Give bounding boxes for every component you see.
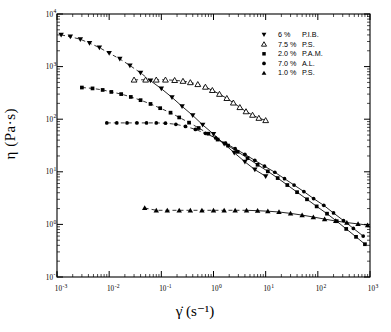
series-line-dashed (145, 208, 247, 210)
legend-percent: 7.5 % (278, 40, 297, 49)
data-point (354, 235, 358, 239)
data-point (135, 121, 139, 125)
data-point (312, 197, 316, 201)
data-point (344, 227, 348, 231)
data-point (195, 82, 201, 87)
svg-text:0: 0 (219, 283, 222, 289)
svg-text:-2: -2 (115, 283, 120, 289)
legend-percent: 2.0 % (278, 49, 297, 58)
figure-root: 10-310-210-11001011021031041031021011001… (0, 0, 391, 332)
data-point (224, 95, 230, 100)
data-point (109, 90, 113, 94)
svg-text:10: 10 (263, 285, 271, 293)
x-tick-label: 102 (316, 283, 327, 293)
svg-text:0: 0 (54, 219, 57, 225)
data-point (262, 71, 267, 75)
data-point (256, 115, 262, 120)
data-point (262, 62, 266, 66)
data-point (204, 131, 208, 135)
data-point (214, 136, 218, 140)
svg-text:10: 10 (46, 274, 54, 282)
data-point (253, 159, 257, 163)
data-point (243, 152, 247, 156)
svg-text:10: 10 (159, 285, 167, 293)
data-point (87, 41, 92, 46)
data-point (262, 33, 267, 37)
data-point (129, 95, 133, 99)
data-point (285, 183, 289, 187)
x-axis-title: γ̇ (s⁻¹) (120, 302, 270, 320)
data-point (352, 227, 356, 231)
data-point (237, 105, 243, 110)
svg-text:1: 1 (271, 283, 274, 289)
legend-percent: 1.0 % (278, 68, 297, 77)
y-tick-label: 103 (46, 61, 57, 71)
svg-text:4: 4 (54, 8, 57, 14)
data-point (125, 121, 129, 125)
series-line-dashed (61, 35, 150, 81)
data-point (145, 121, 149, 125)
svg-text:10: 10 (46, 221, 54, 229)
data-point (164, 121, 168, 125)
series-4 (142, 205, 370, 227)
series-line-solid (151, 81, 266, 177)
data-point (149, 102, 153, 106)
data-point (256, 163, 260, 167)
data-point (283, 177, 287, 181)
data-point (292, 183, 296, 187)
chart-canvas: 10-310-210-11001011021031041031021011001… (0, 0, 391, 332)
y-axis-title: η (Pa·s) (2, 108, 36, 159)
data-point (68, 35, 73, 40)
data-point (184, 125, 188, 129)
data-point (142, 205, 147, 210)
data-point (224, 141, 228, 145)
svg-text:10: 10 (55, 285, 63, 293)
legend-percent: 6 % (278, 30, 291, 39)
data-point (194, 128, 198, 132)
data-point (180, 78, 186, 83)
legend-sample: A.L. (302, 59, 315, 68)
svg-text:-1: -1 (54, 271, 59, 277)
legend-sample: P.A.M. (302, 49, 323, 58)
x-tick-label: 10-1 (159, 283, 172, 293)
data-point (139, 98, 143, 102)
svg-text:2: 2 (323, 283, 326, 289)
data-point (115, 121, 119, 125)
data-point (332, 211, 336, 215)
series-0 (58, 33, 268, 179)
x-tick-label: 103 (368, 283, 379, 293)
data-point (230, 100, 236, 105)
data-point (127, 63, 132, 68)
legend: 6 %P.I.B.7.5 %P.S.2.0 %P.A.M.7.0 %A.L.1.… (261, 30, 322, 77)
svg-text:-1: -1 (167, 283, 172, 289)
svg-text:10: 10 (211, 285, 219, 293)
data-point (276, 176, 280, 180)
plot-frame (57, 14, 370, 277)
legend-sample: P.I.B. (302, 30, 319, 39)
legend-percent: 7.0 % (278, 59, 297, 68)
data-point (363, 242, 367, 246)
data-point (322, 204, 326, 208)
data-point (158, 106, 162, 110)
data-point (154, 121, 158, 125)
data-point (78, 37, 83, 42)
svg-text:10: 10 (316, 285, 324, 293)
data-point (169, 111, 173, 115)
y-tick-label: 101 (46, 166, 57, 176)
x-tick-label: 10-2 (107, 283, 120, 293)
data-point (174, 122, 178, 126)
svg-text:3: 3 (54, 61, 57, 67)
data-point (263, 164, 267, 168)
data-point (105, 121, 109, 125)
data-point (273, 170, 277, 174)
data-point (261, 42, 266, 46)
data-point (252, 168, 257, 173)
svg-text:10: 10 (368, 285, 376, 293)
y-tick-label: 102 (46, 113, 57, 123)
data-point (187, 80, 193, 85)
data-point (217, 91, 223, 96)
data-point (101, 88, 105, 92)
y-tick-label: 10-1 (46, 271, 59, 281)
series-2 (80, 86, 367, 246)
data-point (209, 87, 215, 92)
